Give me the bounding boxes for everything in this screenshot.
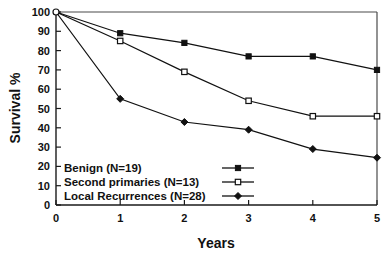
legend-marker-1 bbox=[235, 165, 240, 170]
x-axis-title: Years bbox=[197, 235, 235, 251]
y-axis-title: Survival % bbox=[7, 72, 23, 143]
y-tick-label-60: 60 bbox=[38, 83, 50, 95]
data-point-2-4 bbox=[310, 114, 315, 119]
y-tick-label-10: 10 bbox=[38, 180, 50, 192]
survival-chart: 0 10 20 30 40 50 60 70 80 90 100 0 1 2 3 bbox=[0, 0, 390, 260]
y-tick-label-30: 30 bbox=[38, 141, 50, 153]
legend-label-1: Benign (N=19) bbox=[64, 162, 142, 174]
y-tick-label-50: 50 bbox=[38, 103, 50, 115]
data-point-1-3 bbox=[246, 54, 251, 59]
data-point-2-3 bbox=[246, 98, 251, 103]
x-tick-label-5: 5 bbox=[374, 212, 380, 224]
y-tick-label-70: 70 bbox=[38, 64, 50, 76]
x-tick-label-0: 0 bbox=[53, 212, 59, 224]
y-tick-label-0: 0 bbox=[44, 199, 50, 211]
origin-marker bbox=[53, 9, 59, 15]
data-point-2-1 bbox=[118, 38, 123, 43]
x-tick-label-4: 4 bbox=[310, 212, 317, 224]
y-tick-label-90: 90 bbox=[38, 25, 50, 37]
x-tick-label-2: 2 bbox=[181, 212, 187, 224]
data-point-1-2 bbox=[182, 40, 187, 45]
data-point-1-4 bbox=[310, 54, 315, 59]
data-point-2-5 bbox=[374, 114, 379, 119]
data-point-1-1 bbox=[118, 31, 123, 36]
x-axis-tick-labels: 0 1 2 3 4 5 bbox=[53, 212, 380, 224]
legend-label-2: Second primaries (N=13) bbox=[64, 176, 199, 188]
y-tick-label-100: 100 bbox=[32, 6, 50, 18]
x-tick-label-1: 1 bbox=[117, 212, 123, 224]
legend-marker-2 bbox=[235, 179, 240, 184]
chart-root: 0 10 20 30 40 50 60 70 80 90 100 0 1 2 3 bbox=[0, 0, 390, 260]
y-tick-label-40: 40 bbox=[38, 122, 50, 134]
x-tick-label-3: 3 bbox=[246, 212, 252, 224]
y-tick-label-20: 20 bbox=[38, 160, 50, 172]
y-axis-tick-labels: 0 10 20 30 40 50 60 70 80 90 100 bbox=[32, 6, 50, 211]
data-point-2-2 bbox=[182, 69, 187, 74]
y-tick-label-80: 80 bbox=[38, 45, 50, 57]
data-point-1-5 bbox=[374, 67, 379, 72]
legend-label-3: Local Recurrences (N=28) bbox=[64, 190, 206, 202]
